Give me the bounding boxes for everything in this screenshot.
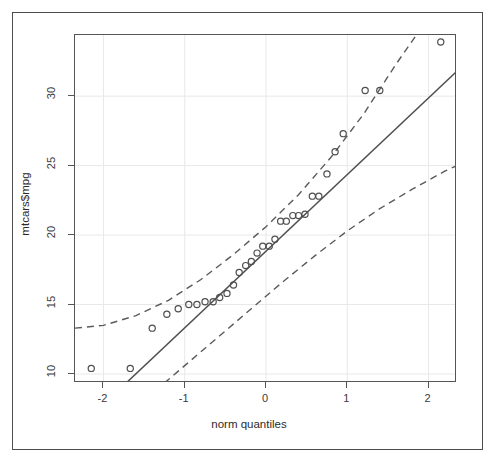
x-tick-mark: [102, 382, 103, 388]
gridlines: [75, 35, 456, 382]
y-tick-label: 25: [45, 152, 57, 174]
x-tick-mark: [428, 382, 429, 388]
x-tick-mark: [184, 382, 185, 388]
y-tick-mark: [68, 95, 74, 96]
y-tick-label: 30: [45, 82, 57, 104]
plot-canvas: [75, 35, 456, 382]
y-axis-title: mtcars$mpg: [19, 154, 31, 254]
y-tick-label: 15: [45, 291, 57, 313]
y-tick-label: 20: [45, 221, 57, 243]
x-tick-label: -1: [179, 392, 189, 404]
y-tick-mark: [68, 234, 74, 235]
x-tick-label: 2: [424, 392, 430, 404]
qq-plot-figure: -2-1012 1015202530 norm quantiles mtcars…: [0, 0, 498, 463]
x-axis-title: norm quantiles: [0, 418, 498, 430]
qq-reference-line: [126, 71, 456, 382]
x-tick-mark: [346, 382, 347, 388]
x-tick-label: 1: [343, 392, 349, 404]
y-tick-mark: [68, 165, 74, 166]
y-tick-label: 10: [45, 360, 57, 382]
y-tick-mark: [68, 373, 74, 374]
plot-area: [74, 34, 456, 382]
x-tick-label: -2: [98, 392, 108, 404]
x-tick-mark: [265, 382, 266, 388]
upper-confidence-band: [75, 35, 416, 328]
x-tick-label: 0: [262, 392, 268, 404]
y-tick-mark: [68, 304, 74, 305]
